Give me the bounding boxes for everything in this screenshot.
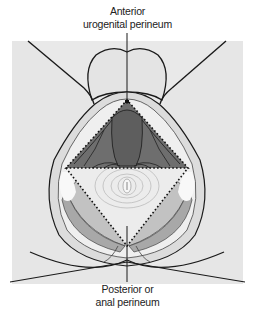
anterior-leader-tip	[125, 100, 129, 103]
posterior-anal-perineum-label: Posterior or anal perineum	[0, 283, 255, 309]
bulbospongiosus	[112, 110, 143, 166]
perineum-diagram	[0, 0, 255, 314]
posterior-label-line2: anal perineum	[0, 296, 255, 309]
posterior-label-line1: Posterior or	[0, 283, 255, 296]
